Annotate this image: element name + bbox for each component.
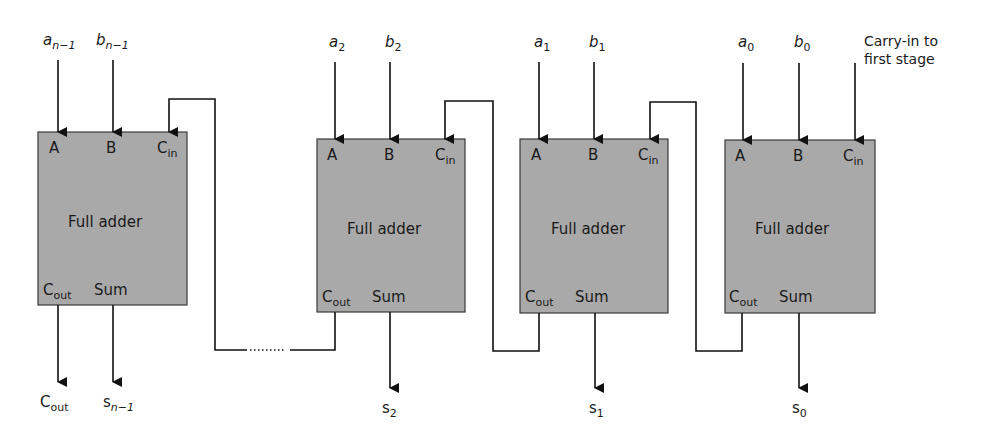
output-label-cout-final: Cout: [40, 395, 69, 413]
label-main: C: [40, 393, 50, 411]
full-adder-title-2: Full adder: [347, 222, 421, 237]
port-sum-n-1: Sum: [94, 283, 128, 298]
ripple-carry-adder-diagram: [0, 0, 987, 448]
label-sub: in: [853, 155, 863, 168]
output-label-s-0: s0: [792, 401, 807, 419]
label-sub: 1: [597, 407, 604, 420]
label-sub: out: [535, 296, 553, 309]
label-main: C: [525, 288, 535, 306]
label-sub: 2: [395, 41, 402, 54]
label-main: C: [638, 146, 648, 164]
label-main: b: [794, 33, 804, 51]
port-a-n-1: A: [49, 141, 59, 156]
input-label-b-0: b0: [794, 35, 811, 53]
label-main: C: [729, 288, 739, 306]
full-adder-title-0: Full adder: [755, 222, 829, 237]
carry-wire-2-to-ellipsis: [290, 312, 335, 350]
label-main: s: [589, 399, 597, 417]
label-main: a: [738, 33, 747, 51]
label-main: s: [103, 393, 111, 411]
label-sub: n−1: [111, 401, 134, 414]
label-main: a: [534, 33, 543, 51]
label-main: b: [385, 33, 395, 51]
port-cin-2: Cin: [435, 148, 456, 166]
label-main: b: [589, 33, 599, 51]
carry-in-note: Carry-in to first stage: [864, 32, 938, 68]
label-sub: 2: [338, 41, 345, 54]
port-sum-2: Sum: [372, 290, 406, 305]
label-sub: 0: [804, 41, 811, 54]
input-label-a-0: a0: [738, 35, 754, 53]
port-b-0: B: [793, 149, 803, 164]
label-main: C: [157, 139, 167, 157]
label-sub: 1: [599, 41, 606, 54]
port-a-2: A: [327, 148, 337, 163]
label-sub: 1: [543, 41, 550, 54]
label-main: C: [322, 288, 332, 306]
label-main: a: [329, 33, 338, 51]
port-cin-0: Cin: [843, 149, 864, 167]
label-sub: 0: [747, 41, 754, 54]
port-b-1: B: [588, 148, 598, 163]
port-sum-1: Sum: [575, 290, 609, 305]
label-main: C: [843, 147, 853, 165]
port-b-n-1: B: [106, 141, 116, 156]
label-main: C: [43, 281, 53, 299]
label-sub: in: [648, 154, 658, 167]
label-sub: out: [739, 296, 757, 309]
label-main: s: [382, 399, 390, 417]
input-label-b-2: b2: [385, 35, 402, 53]
label-main: b: [96, 31, 106, 49]
label-sub: in: [445, 154, 455, 167]
port-b-2: B: [384, 148, 394, 163]
label-sub: out: [332, 296, 350, 309]
port-a-1: A: [531, 148, 541, 163]
input-label-a-1: a1: [534, 35, 550, 53]
label-main: C: [435, 146, 445, 164]
input-label-b-1: b1: [589, 35, 606, 53]
label-sub: n−1: [106, 39, 129, 52]
port-cout-1: Cout: [525, 290, 554, 308]
port-cin-1: Cin: [638, 148, 659, 166]
port-cout-2: Cout: [322, 290, 351, 308]
label-sub: 2: [390, 407, 397, 420]
input-label-a-n-1: an−1: [43, 33, 75, 51]
input-label-b-n-1: bn−1: [96, 33, 129, 51]
output-label-s-2: s2: [382, 401, 397, 419]
port-sum-0: Sum: [779, 290, 813, 305]
label-sub: out: [53, 289, 71, 302]
label-sub: in: [167, 147, 177, 160]
port-a-0: A: [735, 149, 745, 164]
input-label-a-2: a2: [329, 35, 345, 53]
carry-in-note-line1: Carry-in to: [864, 32, 938, 50]
port-cout-n-1: Cout: [43, 283, 72, 301]
full-adder-title-1: Full adder: [551, 222, 625, 237]
port-cin-n-1: Cin: [157, 141, 178, 159]
output-label-s-n-1: sn−1: [103, 395, 134, 413]
label-main: s: [792, 399, 800, 417]
port-cout-0: Cout: [729, 290, 758, 308]
carry-in-note-line2: first stage: [864, 50, 938, 68]
label-main: a: [43, 31, 52, 49]
full-adder-title-n-1: Full adder: [68, 215, 142, 230]
output-label-s-1: s1: [589, 401, 604, 419]
label-sub: out: [50, 401, 68, 414]
label-sub: n−1: [52, 39, 75, 52]
label-sub: 0: [800, 407, 807, 420]
